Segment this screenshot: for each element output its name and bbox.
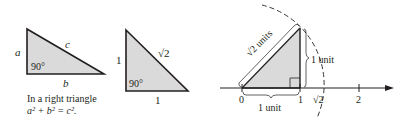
figure2-side-vertical: 1: [116, 54, 122, 66]
figure1-side-c: c: [65, 38, 70, 50]
tick-label-1: 1: [298, 94, 303, 105]
tick-label-0: 0: [239, 94, 244, 105]
tick-label-2: 2: [356, 94, 361, 105]
figure1-side-b: b: [63, 77, 69, 89]
figure1-side-a: a: [15, 46, 21, 58]
figure2-angle-label: 90°: [129, 78, 143, 89]
arrow-right-icon: [385, 85, 394, 91]
figure1-angle-label: 90°: [31, 61, 45, 72]
tick-label-sqrt2: √2: [313, 94, 324, 105]
figure2-hypotenuse: √2: [158, 47, 170, 59]
horizontal-brace: [243, 92, 299, 98]
figure2-side-horizontal: 1: [155, 94, 161, 106]
caption-line-2: a² + b² = c².: [27, 105, 97, 117]
caption-line-1: In a right triangle: [27, 93, 97, 105]
hypotenuse-unit-label: √2 units: [244, 28, 275, 59]
vertical-brace: [304, 29, 309, 87]
vertical-unit-label: 1 unit: [311, 54, 334, 65]
horizontal-unit-label: 1 unit: [258, 102, 281, 113]
figure1-caption: In a right triangle a² + b² = c².: [27, 93, 97, 117]
